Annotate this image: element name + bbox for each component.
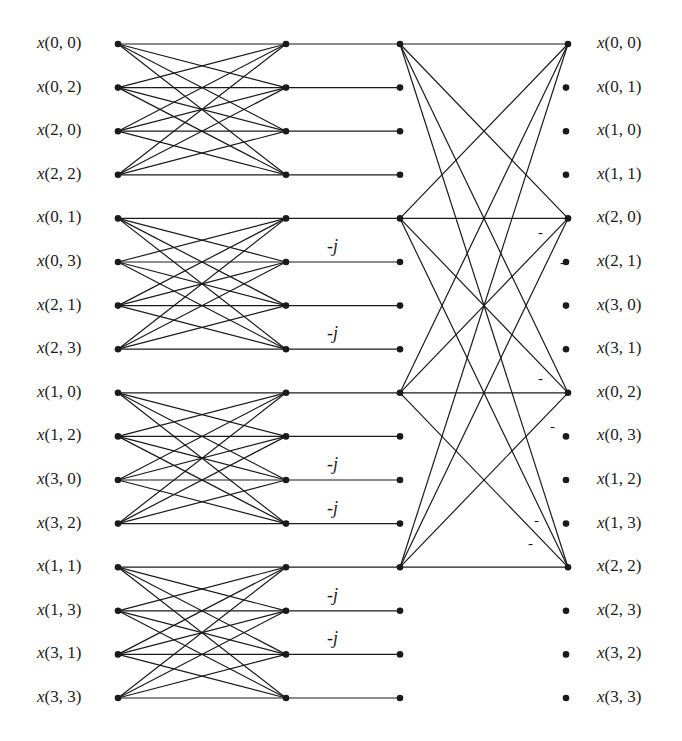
input-node (115, 695, 122, 702)
input-node (115, 302, 122, 309)
input-label: x(0, 3) (37, 251, 81, 271)
input-node (115, 390, 122, 397)
negation-mark: - (538, 225, 543, 239)
stage2-node (397, 128, 404, 135)
input-label: x(3, 1) (37, 643, 81, 663)
input-node (115, 215, 122, 222)
stage2-node (397, 259, 404, 266)
output-node (563, 477, 570, 484)
input-node (115, 259, 122, 266)
fft-flow-graph: x(0, 0)x(0, 2)x(2, 0)x(2, 2)x(0, 1)x(0, … (0, 0, 682, 741)
negation-mark: - (534, 513, 539, 527)
stage2-node (397, 215, 404, 222)
stage1-node (283, 477, 290, 484)
input-node (115, 41, 122, 48)
twiddle-label: -j (327, 454, 338, 474)
stage2-node (397, 477, 404, 484)
twiddle-label: -j (327, 498, 338, 518)
output-node (563, 172, 570, 179)
output-node (565, 390, 572, 397)
input-label: x(1, 1) (37, 556, 81, 576)
input-label: x(0, 0) (37, 33, 81, 53)
stage2-node (397, 302, 404, 309)
stage1-node (283, 41, 290, 48)
stage2-node (397, 695, 404, 702)
stage2-node (397, 346, 404, 353)
stage2-node (397, 608, 404, 615)
twiddle-label: -j (327, 236, 338, 256)
negation-mark: - (550, 419, 555, 433)
stage2-node (397, 41, 404, 48)
negation-mark: - (538, 371, 543, 385)
output-label: x(0, 3) (597, 425, 641, 445)
stage2-node (397, 84, 404, 91)
output-label: x(3, 1) (597, 338, 641, 358)
output-label: x(1, 3) (597, 513, 641, 533)
input-label: x(0, 1) (37, 207, 81, 227)
input-label: x(3, 2) (37, 513, 81, 533)
output-label: x(2, 0) (597, 207, 641, 227)
output-node (563, 695, 570, 702)
input-node (115, 608, 122, 615)
input-label: x(1, 2) (37, 425, 81, 445)
output-node (565, 41, 572, 48)
twiddle-label: -j (327, 323, 338, 343)
flow-graph-edges (0, 0, 682, 741)
stage2-node (397, 433, 404, 440)
output-node (563, 346, 570, 353)
stage2-node (397, 390, 404, 397)
input-node (115, 651, 122, 658)
input-label: x(3, 3) (37, 687, 81, 707)
stage1-node (283, 302, 290, 309)
input-label: x(1, 3) (37, 600, 81, 620)
stage1-node (283, 651, 290, 658)
output-label: x(2, 3) (597, 600, 641, 620)
input-label: x(3, 0) (37, 469, 81, 489)
input-node (115, 128, 122, 135)
output-node (565, 215, 572, 222)
input-label: x(2, 1) (37, 295, 81, 315)
output-label: x(2, 2) (597, 556, 641, 576)
stage1-node (283, 215, 290, 222)
stage1-node (283, 520, 290, 527)
input-label: x(0, 2) (37, 77, 81, 97)
stage1-node (283, 259, 290, 266)
output-label: x(0, 1) (597, 77, 641, 97)
output-node (563, 520, 570, 527)
output-label: x(3, 2) (597, 643, 641, 663)
output-node (563, 84, 570, 91)
stage1-node (283, 608, 290, 615)
output-label: x(0, 0) (597, 33, 641, 53)
stage2-node (397, 520, 404, 527)
input-node (115, 477, 122, 484)
stage1-node (283, 172, 290, 179)
output-node (563, 651, 570, 658)
stage1-node (283, 346, 290, 353)
input-node (115, 433, 122, 440)
output-node (563, 302, 570, 309)
output-label: x(3, 3) (597, 687, 641, 707)
input-label: x(2, 3) (37, 338, 81, 358)
input-node (115, 564, 122, 571)
input-node (115, 84, 122, 91)
stage1-node (283, 564, 290, 571)
stage1-node (283, 390, 290, 397)
stage2-node (397, 651, 404, 658)
input-node (115, 520, 122, 527)
output-label: x(1, 0) (597, 120, 641, 140)
stage2-node (397, 564, 404, 571)
output-label: x(0, 2) (597, 382, 641, 402)
output-label: x(1, 2) (597, 469, 641, 489)
twiddle-label: -j (327, 585, 338, 605)
output-label: x(3, 0) (597, 295, 641, 315)
output-label: x(1, 1) (597, 164, 641, 184)
stage1-node (283, 433, 290, 440)
output-node (563, 433, 570, 440)
twiddle-label: -j (327, 628, 338, 648)
negation-mark: - (560, 255, 565, 269)
output-node (563, 608, 570, 615)
stage1-node (283, 84, 290, 91)
stage1-node (283, 128, 290, 135)
input-label: x(2, 2) (37, 164, 81, 184)
negation-mark: - (528, 536, 533, 550)
